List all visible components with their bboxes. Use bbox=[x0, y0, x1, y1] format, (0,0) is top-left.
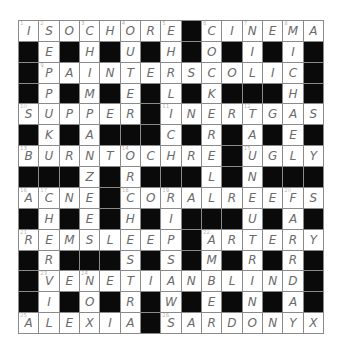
letter-cell[interactable]: I bbox=[161, 209, 180, 229]
letter-cell[interactable]: L bbox=[222, 271, 241, 291]
letter-cell[interactable]: 19R bbox=[161, 188, 180, 208]
letter-cell[interactable]: N bbox=[263, 271, 282, 291]
letter-cell[interactable]: R bbox=[141, 21, 160, 41]
letter-cell[interactable]: E bbox=[263, 188, 282, 208]
letter-cell[interactable]: 17C bbox=[39, 188, 58, 208]
letter-cell[interactable]: A bbox=[161, 271, 180, 291]
letter-cell[interactable]: A bbox=[182, 188, 201, 208]
letter-cell[interactable]: C bbox=[283, 63, 302, 83]
letter-cell[interactable]: O bbox=[60, 21, 79, 41]
letter-cell[interactable]: 4O bbox=[121, 21, 140, 41]
letter-cell[interactable]: R bbox=[60, 146, 79, 166]
letter-cell[interactable]: R bbox=[39, 251, 58, 271]
letter-cell[interactable]: W bbox=[161, 292, 180, 312]
letter-cell[interactable]: R bbox=[283, 251, 302, 271]
letter-cell[interactable]: 26S bbox=[161, 313, 180, 333]
letter-cell[interactable]: A bbox=[283, 292, 302, 312]
letter-cell[interactable]: P bbox=[161, 230, 180, 250]
letter-cell[interactable]: I bbox=[39, 292, 58, 312]
letter-cell[interactable]: I bbox=[80, 63, 99, 83]
letter-cell[interactable]: S bbox=[121, 251, 140, 271]
letter-cell[interactable]: R bbox=[222, 230, 241, 250]
letter-cell[interactable]: T bbox=[121, 63, 140, 83]
letter-cell[interactable]: S bbox=[161, 251, 180, 271]
letter-cell[interactable]: 20F bbox=[283, 188, 302, 208]
letter-cell[interactable]: C bbox=[161, 125, 180, 145]
letter-cell[interactable]: A bbox=[121, 313, 140, 333]
letter-cell[interactable]: E bbox=[60, 313, 79, 333]
letter-cell[interactable]: 13B bbox=[19, 146, 38, 166]
letter-cell[interactable]: H bbox=[283, 84, 302, 104]
letter-cell[interactable]: R bbox=[222, 104, 241, 124]
letter-cell[interactable]: O bbox=[80, 292, 99, 312]
letter-cell[interactable]: 11I bbox=[161, 104, 180, 124]
letter-cell[interactable]: M bbox=[60, 230, 79, 250]
letter-cell[interactable]: R bbox=[283, 230, 302, 250]
letter-cell[interactable]: 2S bbox=[39, 21, 58, 41]
letter-cell[interactable]: 22A bbox=[202, 230, 221, 250]
letter-cell[interactable]: O bbox=[243, 313, 262, 333]
letter-cell[interactable]: E bbox=[80, 188, 99, 208]
letter-cell[interactable]: P bbox=[39, 84, 58, 104]
letter-cell[interactable]: 5E bbox=[161, 21, 180, 41]
letter-cell[interactable]: E bbox=[202, 146, 221, 166]
letter-cell[interactable]: 1I bbox=[19, 21, 38, 41]
letter-cell[interactable]: I bbox=[222, 21, 241, 41]
letter-cell[interactable]: E bbox=[243, 188, 262, 208]
letter-cell[interactable]: O bbox=[202, 42, 221, 62]
letter-cell[interactable]: A bbox=[283, 104, 302, 124]
letter-cell[interactable]: P bbox=[80, 104, 99, 124]
letter-cell[interactable]: 8M bbox=[283, 21, 302, 41]
letter-cell[interactable]: U bbox=[39, 146, 58, 166]
letter-cell[interactable]: R bbox=[202, 125, 221, 145]
letter-cell[interactable]: R bbox=[161, 63, 180, 83]
letter-cell[interactable]: L bbox=[100, 230, 119, 250]
letter-cell[interactable]: A bbox=[80, 125, 99, 145]
letter-cell[interactable]: Y bbox=[304, 230, 323, 250]
letter-cell[interactable]: E bbox=[263, 21, 282, 41]
letter-cell[interactable]: T bbox=[243, 230, 262, 250]
letter-cell[interactable]: X bbox=[80, 313, 99, 333]
letter-cell[interactable]: S bbox=[304, 188, 323, 208]
letter-cell[interactable]: 23V bbox=[39, 271, 58, 291]
letter-cell[interactable]: A bbox=[182, 313, 201, 333]
letter-cell[interactable]: G bbox=[263, 104, 282, 124]
letter-cell[interactable]: 12T bbox=[243, 104, 262, 124]
letter-cell[interactable]: N bbox=[60, 188, 79, 208]
letter-cell[interactable]: M bbox=[80, 84, 99, 104]
letter-cell[interactable]: E bbox=[60, 271, 79, 291]
letter-cell[interactable]: S bbox=[80, 230, 99, 250]
letter-cell[interactable]: A bbox=[283, 209, 302, 229]
letter-cell[interactable]: E bbox=[39, 42, 58, 62]
letter-cell[interactable]: E bbox=[121, 84, 140, 104]
letter-cell[interactable]: D bbox=[222, 313, 241, 333]
letter-cell[interactable]: U bbox=[39, 104, 58, 124]
letter-cell[interactable]: R bbox=[222, 188, 241, 208]
letter-cell[interactable]: I bbox=[263, 63, 282, 83]
letter-cell[interactable]: S bbox=[182, 63, 201, 83]
letter-cell[interactable]: T bbox=[100, 146, 119, 166]
letter-cell[interactable]: A bbox=[243, 125, 262, 145]
letter-cell[interactable]: I bbox=[141, 271, 160, 291]
letter-cell[interactable]: Y bbox=[283, 313, 302, 333]
letter-cell[interactable]: N bbox=[80, 146, 99, 166]
letter-cell[interactable]: E bbox=[202, 104, 221, 124]
letter-cell[interactable]: R bbox=[121, 104, 140, 124]
letter-cell[interactable]: N bbox=[100, 63, 119, 83]
letter-cell[interactable]: R bbox=[182, 146, 201, 166]
letter-cell[interactable]: C bbox=[202, 63, 221, 83]
letter-cell[interactable]: R bbox=[202, 313, 221, 333]
letter-cell[interactable]: T bbox=[121, 271, 140, 291]
letter-cell[interactable]: H bbox=[80, 42, 99, 62]
letter-cell[interactable]: 14O bbox=[121, 146, 140, 166]
letter-cell[interactable]: Y bbox=[304, 146, 323, 166]
letter-cell[interactable]: H bbox=[161, 42, 180, 62]
letter-cell[interactable]: H bbox=[121, 209, 140, 229]
letter-cell[interactable]: L bbox=[39, 313, 58, 333]
letter-cell[interactable]: K bbox=[202, 84, 221, 104]
letter-cell[interactable]: E bbox=[100, 104, 119, 124]
letter-cell[interactable]: 16A bbox=[19, 188, 38, 208]
letter-cell[interactable]: I bbox=[283, 42, 302, 62]
letter-cell[interactable]: N bbox=[182, 104, 201, 124]
letter-cell[interactable]: C bbox=[141, 146, 160, 166]
